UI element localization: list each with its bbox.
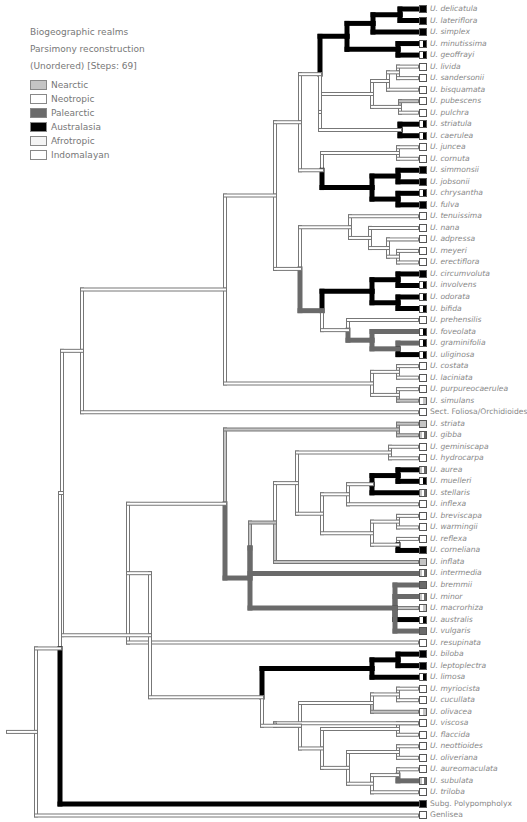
tip-state-icon [419,305,427,313]
tip-state-icon [419,742,427,750]
taxon-label: U. costata [430,361,468,371]
tip-state-icon [419,397,427,405]
taxon-label: U. olivacea [430,707,472,717]
tip-state-icon [419,477,427,485]
taxon-label: U. leptoplectra [430,661,486,671]
taxon-label: U. uliginosa [430,350,474,360]
taxon-label: U. juncea [430,142,466,152]
tip-state-icon [419,247,427,255]
taxon-label: U. sandersonii [430,73,484,83]
tip-state-icon [419,281,427,289]
taxon-label: U. aureomaculata [430,764,498,774]
taxon-label: U. minutissima [430,39,487,49]
taxon-label: U. simulans [430,396,474,406]
tip-state-icon [419,316,427,324]
tip-state-icon [419,51,427,59]
taxon-label: U. gibba [430,430,462,440]
tip-state-icon [419,523,427,531]
tip-state-icon [419,28,427,36]
taxon-label: U. geoffrayi [430,50,474,60]
tip-state-icon [419,328,427,336]
tip-state-icon [419,604,427,612]
tip-state-icon [419,374,427,382]
tip-state-icon [419,639,427,647]
tip-state-icon [419,109,427,117]
taxon-label: U. lateriflora [430,16,477,26]
tip-state-icon [419,535,427,543]
tip-state-icon [419,293,427,301]
tip-state-icon [419,788,427,796]
taxon-label: U. resupinata [430,638,481,648]
taxon-label: U. pulchra [430,108,469,118]
tip-state-icon [419,696,427,704]
tip-state-icon [419,97,427,105]
tip-state-icon [419,201,427,209]
taxon-label: U. laciniata [430,373,473,383]
tip-state-icon [419,120,427,128]
taxon-label: U. delicatula [430,4,477,14]
taxon-label: U. biloba [430,649,464,659]
tip-state-icon [419,408,427,416]
tip-state-icon [419,86,427,94]
taxon-label: U. cornuta [430,154,470,164]
taxon-label: U. muelleri [430,476,471,486]
taxon-label: U. australis [430,615,473,625]
taxon-label: U. vulgaris [430,626,470,636]
taxon-label: U. odorata [430,292,470,302]
tip-state-icon [419,569,427,577]
taxon-label: U. prehensilis [430,315,482,325]
tip-state-icon [419,351,427,359]
taxon-label: U. fulva [430,200,459,210]
tip-state-icon [419,431,427,439]
taxon-label: U. livida [430,62,461,72]
tip-state-icon [419,593,427,601]
taxon-label: U. bifida [430,304,462,314]
taxon-label: U. simplex [430,27,470,37]
tip-state-icon [419,40,427,48]
tip-state-icon [419,420,427,428]
tip-state-icon [419,166,427,174]
taxon-label: U. breviscapa [430,511,482,521]
taxon-label: U. circumvoluta [430,269,490,279]
tip-state-icon [419,616,427,624]
tip-state-icon [419,212,427,220]
taxon-label: U. myriocista [430,684,480,694]
taxon-label: U. macrorhiza [430,603,483,613]
tip-state-icon [419,719,427,727]
tip-state-icon [419,143,427,151]
tip-state-icon [419,132,427,140]
taxon-label: U. cornelianа [430,545,480,555]
tip-state-icon [419,339,427,347]
taxon-label: U. adpressa [430,234,475,244]
taxon-label: Subg. Polypompholyx [430,799,512,809]
tip-state-icon [419,765,427,773]
tip-state-icon [419,189,427,197]
tip-state-icon [419,800,427,808]
taxon-label: U. warmingii [430,522,478,532]
taxon-label: U. nana [430,223,459,233]
tip-state-icon [419,673,427,681]
taxon-label: U. limosa [430,672,465,682]
tip-state-icon [419,454,427,462]
tip-state-icon [419,811,427,819]
taxon-label: U. pubescens [430,96,481,106]
taxon-label: U. cucullata [430,695,475,705]
tip-state-icon [419,155,427,163]
taxon-label: U. inflata [430,557,465,567]
taxon-label: U. hydrocarpa [430,453,484,463]
taxon-label: U. chrysantha [430,188,483,198]
taxon-label: U. bisquamata [430,85,485,95]
taxon-label: U. tenuissima [430,211,482,221]
tip-state-icon [419,708,427,716]
tip-state-icon [419,777,427,785]
taxon-label: U. jobsonii [430,177,470,187]
tip-state-icon [419,627,427,635]
taxon-label: U. striatula [430,119,472,129]
tip-state-icon [419,235,427,243]
taxon-label: U. foveolata [430,327,476,337]
taxon-label: U. intermedia [430,568,482,578]
taxon-label: U. simmonsii [430,165,479,175]
taxon-label: U. aurea [430,465,462,475]
taxon-label: U. flaccida [430,730,470,740]
tip-state-icon [419,754,427,762]
